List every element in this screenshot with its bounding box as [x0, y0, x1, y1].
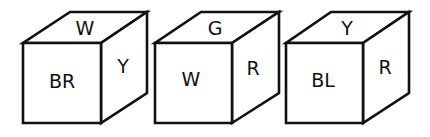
cube-1-right-label: Y: [116, 55, 129, 77]
cube-1-top-label: W: [76, 17, 95, 39]
cube-1: W BR Y: [23, 12, 147, 123]
cube-2-top-label: G: [208, 17, 223, 39]
cube-diagram: W BR Y G W R Y BL R: [0, 0, 430, 137]
cube-3-right-label: R: [378, 56, 391, 78]
cube-3-top-label: Y: [340, 17, 353, 39]
cube-1-front-label: BR: [49, 70, 75, 92]
cube-3-front-label: BL: [311, 69, 335, 91]
cube-3: Y BL R: [286, 12, 409, 123]
cube-2-right-label: R: [246, 57, 259, 79]
cube-2: G W R: [155, 12, 279, 123]
cube-2-front-label: W: [182, 68, 201, 90]
